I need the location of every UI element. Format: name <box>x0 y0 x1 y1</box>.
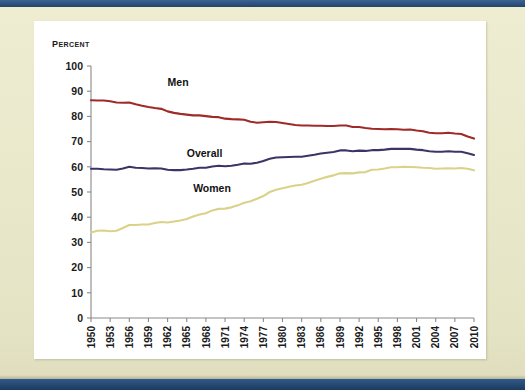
x-tick-label: 1962 <box>162 326 173 349</box>
x-tick-label: 1968 <box>201 326 212 349</box>
page-background: Percent 01020304050607080901001950195319… <box>0 0 525 390</box>
chart-panel: Percent 01020304050607080901001950195319… <box>34 21 486 359</box>
series-line-men <box>91 100 474 138</box>
x-tick-label: 1965 <box>181 326 192 349</box>
x-tick-label: 1980 <box>277 326 288 349</box>
x-tick-label: 1956 <box>124 326 135 349</box>
x-tick-label: 1953 <box>105 326 116 349</box>
chart-axes <box>91 66 474 318</box>
y-tick-label: 0 <box>77 312 83 324</box>
x-tick-label: 2001 <box>411 326 422 349</box>
line-chart-svg: 0102030405060708090100195019531956195919… <box>34 21 486 359</box>
series-label-men: Men <box>168 76 189 88</box>
bottom-band <box>0 379 525 390</box>
y-tick-label: 60 <box>71 161 83 173</box>
y-tick-label: 90 <box>71 85 83 97</box>
y-tick-label: 10 <box>71 287 83 299</box>
y-tick-label: 80 <box>71 110 83 122</box>
y-tick-label: 40 <box>71 211 83 223</box>
x-tick-label: 1998 <box>392 326 403 349</box>
x-tick-label: 1986 <box>315 326 326 349</box>
plot-area: 0102030405060708090100195019531956195919… <box>34 21 486 359</box>
x-tick-label: 2010 <box>469 326 480 349</box>
y-tick-label: 100 <box>65 60 83 72</box>
series-line-women <box>91 167 474 233</box>
x-tick-label: 1989 <box>335 326 346 349</box>
x-tick-label: 1977 <box>258 326 269 349</box>
x-tick-label: 1983 <box>296 326 307 349</box>
x-tick-label: 1959 <box>143 326 154 349</box>
series-label-women: Women <box>193 182 231 194</box>
x-tick-label: 2007 <box>449 326 460 349</box>
x-tick-label: 1950 <box>86 326 97 349</box>
x-tick-label: 1974 <box>239 326 250 349</box>
x-tick-label: 1992 <box>354 326 365 349</box>
top-band <box>0 0 525 7</box>
y-tick-label: 50 <box>71 186 83 198</box>
series-label-overall: Overall <box>187 147 223 159</box>
x-tick-label: 1995 <box>373 326 384 349</box>
y-tick-label: 70 <box>71 135 83 147</box>
y-tick-label: 30 <box>71 236 83 248</box>
x-tick-label: 1971 <box>220 326 231 349</box>
y-tick-label: 20 <box>71 261 83 273</box>
x-tick-label: 2004 <box>430 326 441 349</box>
